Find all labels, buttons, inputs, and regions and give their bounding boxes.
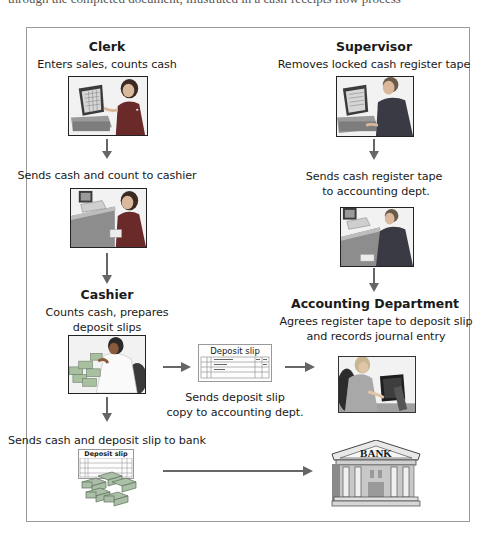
arrow-to-cashier — [101, 253, 113, 284]
supervisor-description: Removes locked cash register tape — [278, 57, 471, 72]
arrow-cashier-down-to-bank-step — [101, 397, 113, 422]
step-to-bank-label: Sends cash and deposit slip to bank — [8, 433, 206, 448]
deposit-slip-lines — [199, 356, 271, 380]
step-to-accounting-label-line1: Sends cash register tape — [306, 169, 443, 184]
arrow-deposit-to-bank — [163, 465, 313, 477]
arrow-deposit-slip-to-accounting — [285, 361, 315, 373]
arrow-cashier-to-deposit-slip — [163, 361, 191, 373]
accounting-description-line1: Agrees register tape to deposit slip — [280, 314, 473, 329]
deposit-slip-title: Deposit slip — [199, 346, 271, 356]
supervisor-at-register-image — [336, 76, 414, 137]
accounting-description-line2: and records journal entry — [307, 329, 446, 344]
accountant-at-computer-image — [338, 356, 416, 413]
arrow-supervisor-down — [368, 139, 380, 160]
bank-label: BANK — [360, 447, 392, 459]
arrow-clerk-down — [101, 139, 113, 159]
clerk-handing-cash-image — [70, 188, 147, 248]
cash-stacks-image — [80, 470, 138, 510]
accounting-title: Accounting Department — [291, 296, 459, 311]
clerk-description: Enters sales, counts cash — [37, 57, 176, 72]
deposit-slip-document: Deposit slip — [198, 344, 272, 382]
clerk-at-register-image — [68, 76, 148, 136]
deposit-slip-small-title: Deposit slip — [79, 450, 133, 458]
cashier-counting-cash-image — [68, 335, 146, 394]
supervisor-title: Supervisor — [336, 39, 412, 54]
cashier-title: Cashier — [81, 287, 134, 302]
arrow-to-accounting — [368, 268, 380, 292]
cut-off-heading-text: through the completed document, illustra… — [8, 0, 488, 7]
deposit-slip-caption-line1: Sends deposit slip — [185, 390, 285, 405]
supervisor-with-tape-image — [340, 207, 414, 267]
cashier-description-line2: deposit slips — [73, 320, 142, 335]
step-to-accounting-label-line2: to accounting dept. — [322, 184, 429, 199]
clerk-title: Clerk — [89, 39, 125, 54]
bank-building-icon: BANK — [330, 440, 422, 510]
step-to-cashier-label: Sends cash and count to cashier — [18, 168, 197, 183]
cashier-description-line1: Counts cash, prepares — [46, 305, 169, 320]
deposit-slip-caption-line2: copy to accounting dept. — [166, 405, 303, 420]
